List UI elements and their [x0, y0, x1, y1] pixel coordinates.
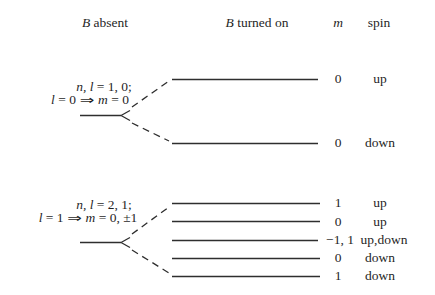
- column-header-m: m: [333, 16, 343, 30]
- l1-dashed-branch-up: [132, 207, 169, 234]
- l1-level4-spin-value: down: [365, 251, 395, 265]
- l0-level2-m-value: 0: [335, 136, 342, 150]
- implies-arrow-icon: ⇒: [80, 93, 95, 107]
- l0-level1-m-value: 0: [335, 72, 342, 86]
- m-value: = 0: [108, 92, 129, 107]
- m-variable: m: [98, 92, 108, 107]
- l1-level2-m-value: 0: [335, 215, 342, 229]
- l1-state-label-line2: l = 1⇒m = 0, ±1: [39, 211, 138, 225]
- l0-fork-tick-down: [121, 116, 130, 121]
- column-header-b-absent: B absent: [82, 16, 128, 30]
- column-header-b-turned-on: B turned on: [226, 16, 289, 30]
- l-value: = 1: [42, 210, 63, 225]
- l0-fork-tick-up: [121, 111, 130, 116]
- l1-level4-m-value: 0: [335, 251, 342, 265]
- l0-dashed-branch-down: [132, 123, 169, 141]
- b-absent-text: absent: [90, 15, 128, 30]
- l0-dashed-branch-up: [132, 81, 169, 107]
- column-header-spin: spin: [368, 16, 391, 30]
- l0-level2-spin-value: down: [365, 136, 395, 150]
- l0-state-label-line2: l = 0⇒m = 0: [51, 93, 129, 107]
- l-value: = 0: [55, 92, 76, 107]
- m-variable: m: [86, 210, 96, 225]
- l1-level3-spin-value: up,down: [361, 233, 408, 247]
- b-turned-on-text: turned on: [234, 15, 289, 30]
- b-variable: B: [82, 15, 90, 30]
- l1-level2-spin-value: up: [373, 215, 387, 229]
- m-values: = 0, ±1: [95, 210, 137, 225]
- l1-fork-tick-down: [121, 243, 130, 248]
- l1-level1-m-value: 1: [335, 196, 342, 210]
- l1-level5-m-value: 1: [335, 269, 342, 283]
- zeeman-energy-level-diagram: B absent B turned on m spin n, l = 1, 0;…: [0, 0, 435, 295]
- nl-variables: n, l: [76, 79, 93, 94]
- implies-arrow-icon: ⇒: [67, 211, 82, 225]
- l1-level5-spin-value: down: [365, 269, 395, 283]
- l1-level3-m-value: −1, 1: [326, 233, 354, 247]
- l1-fork-tick-up: [121, 238, 130, 243]
- l0-level1-spin-value: up: [373, 72, 387, 86]
- l1-level1-spin-value: up: [373, 196, 387, 210]
- l1-dashed-branch-down: [132, 250, 169, 273]
- b-variable: B: [226, 15, 234, 30]
